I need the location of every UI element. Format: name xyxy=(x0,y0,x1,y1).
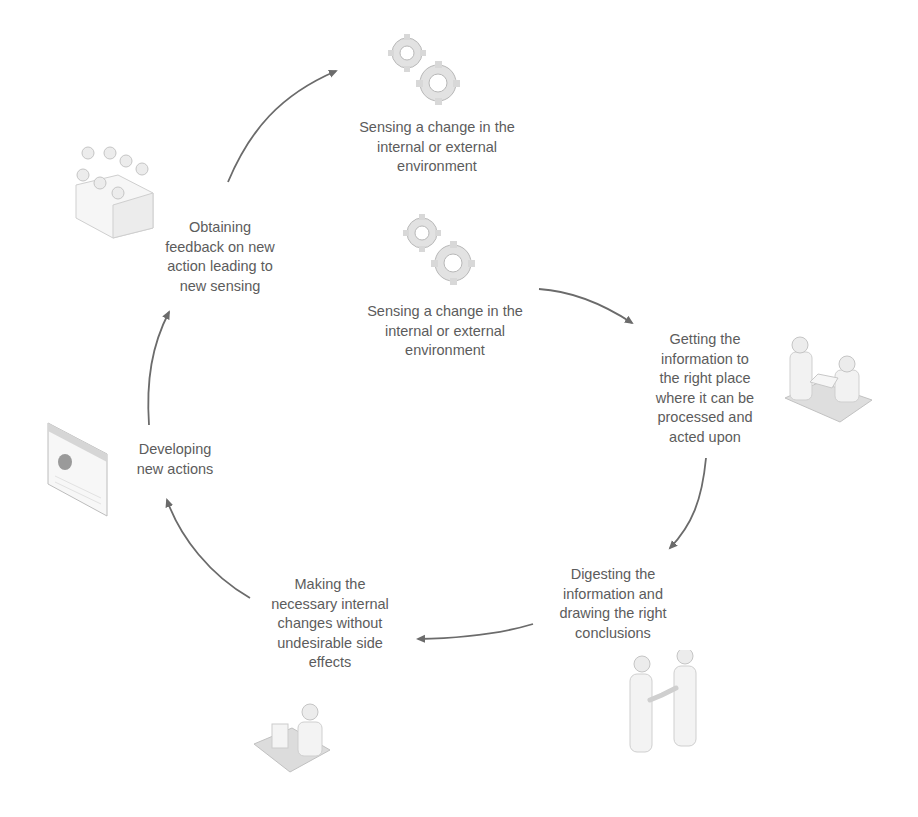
label-line: undesirable side xyxy=(255,634,405,654)
people-at-desk-icon xyxy=(780,330,875,425)
label-line: new sensing xyxy=(155,277,285,297)
label-line: the right place xyxy=(640,369,770,389)
arrow-developing-to-feedback xyxy=(148,312,169,425)
label-line: information to xyxy=(640,350,770,370)
gears-icon xyxy=(385,33,465,108)
arrow-sensing-to-getting xyxy=(539,289,632,323)
label-line: feedback on new xyxy=(155,238,285,258)
label-line: Sensing a change in the xyxy=(350,302,540,322)
label-line: Getting the xyxy=(640,330,770,350)
meeting-table-icon xyxy=(68,143,158,243)
label-line: drawing the right xyxy=(548,604,678,624)
node-obtaining-feedback: Obtaining feedback on new action leading… xyxy=(155,218,285,296)
node-digesting: Digesting the information and drawing th… xyxy=(548,565,678,643)
arrow-making-to-developing xyxy=(167,500,250,598)
gears-icon xyxy=(400,213,480,288)
label-line: effects xyxy=(255,653,405,673)
label-line: acted upon xyxy=(640,428,770,448)
label-line: new actions xyxy=(120,460,230,480)
label-line: environment xyxy=(350,341,540,361)
handshake-people-icon xyxy=(622,650,707,765)
label-line: conclusions xyxy=(548,624,678,644)
label-line: necessary internal xyxy=(255,595,405,615)
arrow-feedback-to-sensing xyxy=(228,71,336,182)
label-line: processed and xyxy=(640,408,770,428)
label-line: Sensing a change in the xyxy=(342,118,532,138)
arrow-digesting-to-making xyxy=(418,624,533,639)
node-getting-information: Getting the information to the right pla… xyxy=(640,330,770,447)
node-sensing-center: Sensing a change in the internal or exte… xyxy=(350,302,540,361)
person-at-computer-icon xyxy=(252,698,334,774)
node-developing-actions: Developing new actions xyxy=(120,440,230,479)
label-line: internal or external xyxy=(342,138,532,158)
label-line: information and xyxy=(548,585,678,605)
node-sensing-top: Sensing a change in the internal or exte… xyxy=(342,118,532,177)
label-line: Obtaining xyxy=(155,218,285,238)
label-line: where it can be xyxy=(640,389,770,409)
label-line: action leading to xyxy=(155,257,285,277)
label-line: Making the xyxy=(255,575,405,595)
label-line: Developing xyxy=(120,440,230,460)
arrow-getting-to-digesting xyxy=(670,458,706,548)
document-window-icon xyxy=(45,420,111,518)
label-line: changes without xyxy=(255,614,405,634)
node-making-changes: Making the necessary internal changes wi… xyxy=(255,575,405,673)
label-line: internal or external xyxy=(350,322,540,342)
label-line: environment xyxy=(342,157,532,177)
label-line: Digesting the xyxy=(548,565,678,585)
